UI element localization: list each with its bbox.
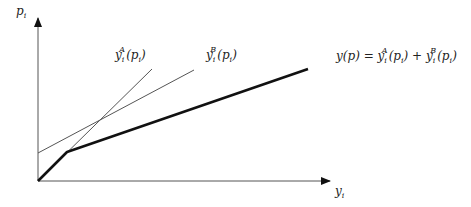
y-axis-label: pi (16, 4, 27, 20)
supply-aggregation-diagram: pi yi yiA(pi) yiB(pi) y(p) = yiA(pi) + y… (0, 0, 471, 207)
curve-b-line (38, 70, 194, 153)
aggregate-curve-label: y(p) = yiA(pi) + yiB(pi) (335, 46, 457, 65)
aggregate-curve-line (38, 69, 308, 181)
curve-a-label: yiA(pi) (114, 45, 146, 64)
curve-b-label: yiB(pi) (205, 45, 237, 64)
x-axis-label: yi (334, 184, 345, 200)
